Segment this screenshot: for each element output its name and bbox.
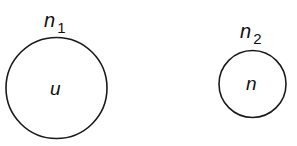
node-1-label: n1 [44,9,65,36]
node-2-subscript: 2 [253,30,261,47]
node-2-label: n2 [240,20,261,47]
node-1: n1 u [6,9,107,139]
node-1-subscript: 1 [57,19,65,36]
node-1-inner-label: u [50,78,61,99]
node-2-inner-label: n [246,73,257,94]
node-2: n2 n [219,20,286,118]
diagram-canvas: n1 u n2 n [0,0,297,146]
